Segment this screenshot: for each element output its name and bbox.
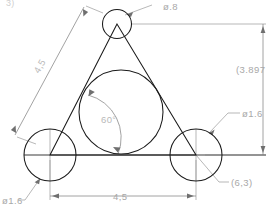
left-dim-extension-top [86, 6, 103, 13]
label-corner-clipped: 3) [6, 0, 15, 8]
left-diagonal-dimension-line [15, 7, 84, 135]
technical-drawing-canvas: ø.8 (3.897 ø1.6 (6,3) ø1.6 4,5 4,5 60° 3… [0, 0, 278, 215]
vertical-dim-arrow-bottom [261, 146, 266, 153]
left-dim-arrow-bottom [11, 125, 16, 132]
vertical-dim-arrow-top [261, 26, 266, 33]
left-dim-arrow-top [83, 9, 88, 17]
bottom-dim-arrow-left [52, 194, 59, 199]
label-right-circle-diameter: ø1.6 [242, 108, 263, 119]
label-left-circle-diameter: ø1.6 [2, 195, 23, 206]
label-bottom-length: 4,5 [113, 191, 127, 202]
label-coordinate-callout: (6,3) [231, 177, 253, 188]
cad-drawing-svg: ø.8 (3.897 ø1.6 (6,3) ø1.6 4,5 4,5 60° 3… [0, 0, 278, 215]
leader-line-right-circle [210, 113, 228, 132]
label-interior-angle: 60° [101, 114, 117, 125]
label-left-side-length: 4,5 [31, 57, 48, 75]
equilateral-triangle [50, 24, 196, 155]
angle-arc-arrow-start [89, 89, 95, 96]
bottom-dim-arrow-right [187, 194, 194, 199]
label-top-circle-diameter: ø.8 [163, 1, 178, 12]
leader-arrow-left-circle [35, 179, 41, 185]
label-vertical-reference: (3.897 [236, 64, 265, 75]
